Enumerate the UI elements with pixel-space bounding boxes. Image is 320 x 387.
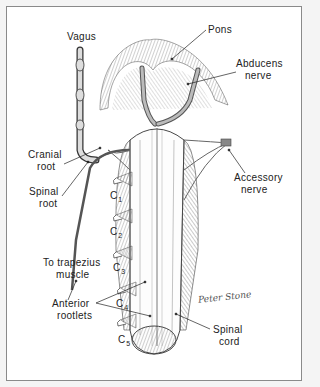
- label-c3: C3: [113, 262, 124, 273]
- vagus-nerve: [76, 50, 96, 160]
- label-spinal-cord-line1: Spinal: [213, 324, 243, 335]
- label-c1: C1: [110, 190, 121, 201]
- label-pons: Pons: [208, 24, 232, 35]
- label-spinal-cord-line2: cord: [219, 336, 240, 347]
- label-trapezius-line2: muscle: [56, 269, 89, 280]
- label-anterior-rootlets-line1: Anterior: [52, 298, 89, 309]
- label-accessory-nerve-line2: nerve: [241, 184, 268, 195]
- label-c5: C5: [118, 334, 129, 345]
- label-cranial-root-line1: Cranial: [28, 149, 62, 160]
- label-spinal-root-line1: Spinal: [29, 186, 59, 197]
- label-abducens-line2: nerve: [245, 70, 272, 81]
- label-spinal-root-line2: root: [39, 198, 57, 209]
- pons-shape: [100, 39, 228, 110]
- label-cranial-root-line2: root: [37, 161, 55, 172]
- label-c2: C2: [110, 226, 121, 237]
- label-c4: C4: [116, 298, 127, 309]
- label-abducens-line1: Abducens: [236, 58, 283, 69]
- label-anterior-rootlets-line2: rootlets: [57, 310, 92, 321]
- label-accessory-nerve-line1: Accessory: [234, 172, 283, 183]
- label-vagus: Vagus: [67, 31, 96, 42]
- label-trapezius-line1: To trapezius: [43, 257, 101, 268]
